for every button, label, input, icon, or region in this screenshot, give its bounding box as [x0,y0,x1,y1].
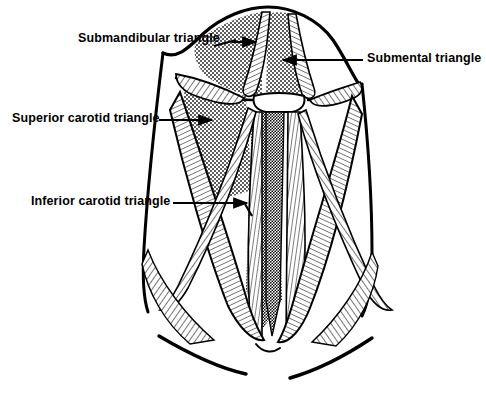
label-submental-triangle: Submental triangle [367,52,481,65]
label-inferior-carotid-triangle: Inferior carotid triangle [31,195,170,208]
hyoid-bone [254,93,305,112]
label-submandibular-triangle: Submandibular triangle [78,32,220,45]
label-superior-carotid-triangle: Superior carotid triangle [12,112,160,125]
